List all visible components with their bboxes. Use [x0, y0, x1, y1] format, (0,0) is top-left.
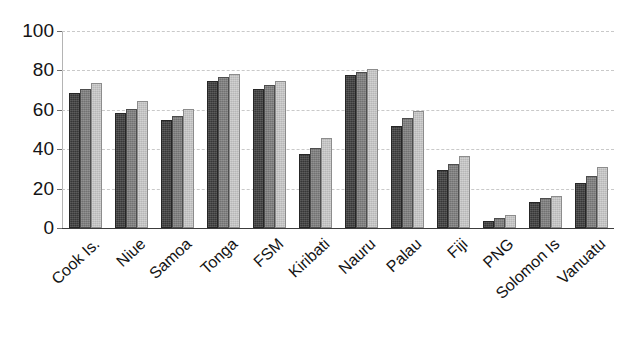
x-tick-label: PNG [505, 211, 543, 248]
x-tick-label-text: Cook Is. [48, 235, 103, 288]
x-tick-label-text: FSM [250, 235, 287, 271]
x-tick-label-text: Fiji [444, 235, 471, 262]
x-tick-label-text: Palau [383, 235, 425, 276]
x-tick-label-text: PNG [480, 235, 518, 272]
x-axis-category-labels: Cook Is.NiueSamoaTongaFSMKiribatiNauruPa… [0, 0, 634, 341]
x-tick-label: Fiji [459, 221, 486, 248]
x-tick-label: FSM [275, 212, 312, 248]
bar-chart: 020406080100 Cook Is.NiueSamoaTongaFSMKi… [0, 0, 634, 341]
x-tick-label: Palau [413, 207, 455, 248]
x-tick-label-text: Nauru [335, 235, 379, 278]
x-tick-label-text: Tonga [197, 235, 241, 278]
x-tick-label: Niue [137, 213, 173, 249]
x-tick-label-text: Niue [113, 235, 149, 271]
